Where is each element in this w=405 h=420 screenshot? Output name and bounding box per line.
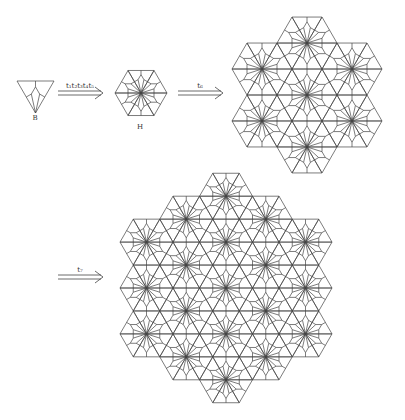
tile-edge xyxy=(319,233,322,238)
tile-edge xyxy=(193,229,197,231)
tile-edge xyxy=(226,315,229,320)
tile-edge xyxy=(270,108,274,110)
tile-edge xyxy=(216,206,220,208)
tile-edge xyxy=(259,206,263,208)
tile-edge xyxy=(223,393,226,398)
tile-edge xyxy=(223,302,226,307)
tile-edge xyxy=(272,254,276,256)
tile-edge xyxy=(263,370,266,375)
tile-edge xyxy=(166,229,170,231)
tile-edge xyxy=(262,100,265,106)
tile-edge xyxy=(272,274,276,276)
tile-edge xyxy=(308,345,312,347)
tile-edge xyxy=(226,347,229,352)
tile-edge xyxy=(352,100,355,106)
tile-edge xyxy=(263,200,266,205)
tile-edge xyxy=(166,345,170,347)
tile-edge xyxy=(289,152,292,158)
tile-edge xyxy=(95,271,103,277)
tile-edge xyxy=(242,368,246,370)
tile-edge xyxy=(176,274,180,276)
tile-edge xyxy=(147,223,150,228)
tile-edge xyxy=(242,343,246,345)
tile-edge xyxy=(122,82,126,84)
tile-edge xyxy=(352,48,355,54)
tile-edge xyxy=(295,231,299,233)
tile-edge xyxy=(216,297,220,299)
tile-edge xyxy=(216,368,220,370)
tile-edge xyxy=(229,391,233,393)
tile-edge xyxy=(349,48,352,54)
tile-edge xyxy=(319,246,322,251)
tile-edge xyxy=(210,187,213,192)
tile-edge xyxy=(330,132,334,134)
tile-edge xyxy=(242,297,246,299)
tile-edge xyxy=(210,279,213,284)
tile-edge xyxy=(319,338,322,343)
tile-edge xyxy=(295,30,299,32)
tile-edge xyxy=(215,93,223,99)
tile-edge xyxy=(295,251,299,253)
tile-edge xyxy=(367,58,370,64)
tile-edge xyxy=(242,389,246,391)
tile-edge xyxy=(250,210,253,215)
tile-edge xyxy=(149,229,153,231)
tile-edge xyxy=(226,210,229,215)
tile-edge xyxy=(149,274,153,276)
tile-edge xyxy=(216,322,220,324)
tile-edge xyxy=(163,297,167,299)
tile-edge xyxy=(286,277,290,279)
tile-edge xyxy=(200,269,203,274)
tile-edge xyxy=(215,87,223,93)
tile-edge xyxy=(144,269,147,274)
tile-edge xyxy=(202,254,206,256)
tile-edge xyxy=(229,208,233,210)
tile-edge xyxy=(269,368,273,370)
tile-edge xyxy=(307,74,310,80)
tile-edge xyxy=(136,251,140,253)
tile-edge xyxy=(206,343,210,345)
tile-edge xyxy=(147,347,150,352)
tile-edge xyxy=(226,256,229,261)
tile-edge xyxy=(255,366,259,368)
tile-edge xyxy=(144,256,147,261)
tile-edge xyxy=(154,84,157,89)
tile-edge xyxy=(186,246,189,251)
tile-edge xyxy=(186,200,189,205)
tile-edge xyxy=(186,338,189,343)
tile-edge xyxy=(306,315,309,320)
tile-edge xyxy=(308,274,312,276)
tile-edge xyxy=(304,22,307,28)
tile-edge xyxy=(219,254,223,256)
tile-edge xyxy=(223,210,226,215)
tile-edge xyxy=(300,28,304,30)
tile-edge xyxy=(286,231,290,233)
tile-edge xyxy=(315,134,319,136)
tile-edge xyxy=(282,208,286,210)
tile-edge xyxy=(31,87,35,94)
tile-edge xyxy=(170,269,173,274)
tile-edge xyxy=(246,229,250,231)
tile-edge xyxy=(144,302,147,307)
tile-edge xyxy=(279,361,282,366)
tile-edge xyxy=(250,315,253,320)
tile-edge xyxy=(170,347,173,352)
tile-edge xyxy=(210,325,213,330)
tile-edge xyxy=(310,80,314,82)
tile-edge xyxy=(266,370,269,375)
tile-edge xyxy=(163,322,167,324)
tile-edge xyxy=(282,366,286,368)
tile-edge xyxy=(367,74,370,80)
tile-edge xyxy=(315,106,319,108)
tile-edge xyxy=(160,279,163,284)
tile-edge xyxy=(160,246,163,251)
tile-edge xyxy=(219,320,223,322)
tile-edge xyxy=(140,229,144,231)
tile-edge xyxy=(127,322,131,324)
tile-edge xyxy=(136,343,140,345)
tile-edge xyxy=(262,84,265,90)
tile-edge xyxy=(246,299,250,301)
tile-edge xyxy=(285,134,289,136)
tile-edge xyxy=(360,56,364,58)
tile-edge xyxy=(148,82,152,84)
